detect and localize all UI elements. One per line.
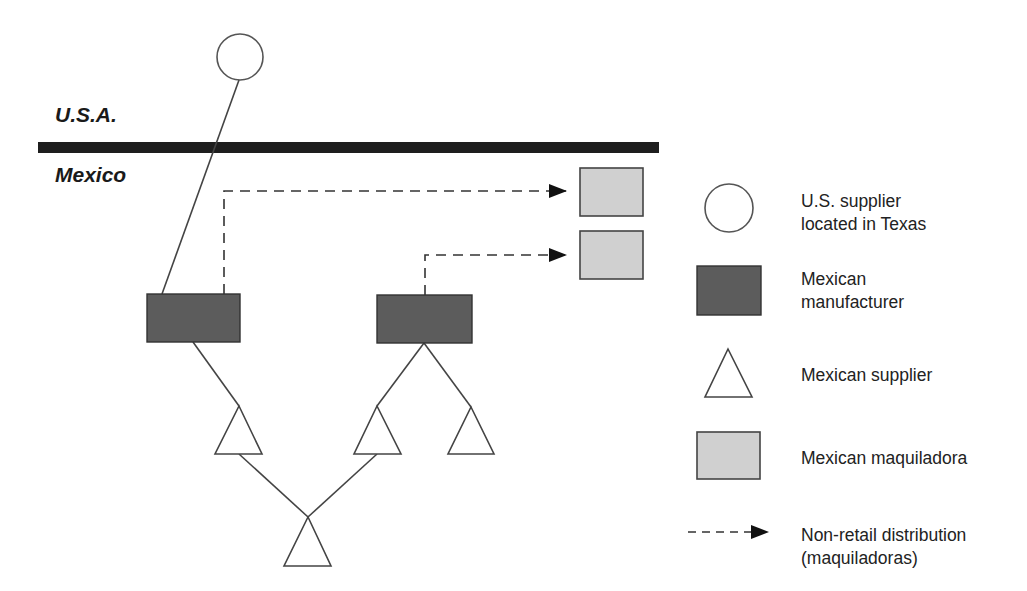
edge-us-supplier-to-manufacturer-1 <box>162 80 239 294</box>
manufacturer-node-2 <box>377 295 472 343</box>
dark-rect-icon <box>697 266 761 315</box>
legend-label-manufacturer: Mexican manufacturer <box>801 268 904 314</box>
legend-label-line: manufacturer <box>801 291 904 314</box>
edge-manufacturer-2-to-supplier-3 <box>424 343 471 407</box>
maquiladora-node-1 <box>580 168 643 216</box>
legend-label-line: Mexican <box>801 268 904 291</box>
legend-label-line: Non-retail distribution <box>801 524 966 547</box>
edge-supplier-1-to-supplier-4 <box>239 454 308 517</box>
edge-manufacturer-1-to-maquiladora-1 <box>224 191 566 294</box>
circle-icon <box>705 184 753 232</box>
usa-region-label: U.S.A. <box>55 104 117 125</box>
legend-label-line: Mexican supplier <box>801 364 932 387</box>
legend-label-line: located in Texas <box>801 213 926 236</box>
legend-label-line: U.S. supplier <box>801 190 926 213</box>
us-mexico-border-bar <box>38 142 659 153</box>
legend-label-line: (maquiladoras) <box>801 547 966 570</box>
edge-manufacturer-2-to-supplier-2 <box>377 343 424 406</box>
legend-label-distribution: Non-retail distribution (maquiladoras) <box>801 524 966 570</box>
supplier-node-2 <box>354 406 401 454</box>
us-supplier-node <box>217 34 263 80</box>
manufacturer-node-1 <box>147 294 240 342</box>
edge-manufacturer-2-to-maquiladora-2 <box>425 255 566 295</box>
mexico-region-label: Mexico <box>55 164 126 185</box>
supplier-node-1 <box>215 406 262 454</box>
triangle-icon <box>705 349 752 397</box>
edge-supplier-2-to-supplier-4 <box>308 454 377 517</box>
supplier-node-3 <box>448 407 494 454</box>
legend-label-us-supplier: U.S. supplier located in Texas <box>801 190 926 236</box>
light-rect-icon <box>697 432 760 479</box>
supplier-node-4 <box>284 517 331 566</box>
edge-manufacturer-1-to-supplier-1 <box>193 342 239 406</box>
legend-label-supplier: Mexican supplier <box>801 364 932 387</box>
legend <box>688 184 768 532</box>
legend-label-maquiladora: Mexican maquiladora <box>801 447 967 470</box>
maquiladora-node-2 <box>580 231 643 279</box>
legend-label-line: Mexican maquiladora <box>801 447 967 470</box>
